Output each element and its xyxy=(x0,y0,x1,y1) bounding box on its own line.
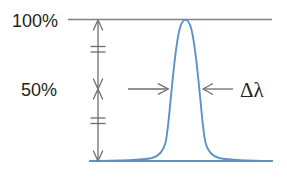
label-delta-lambda: Δλ xyxy=(240,78,265,102)
linewidth-diagram-svg: 100% 50% Δλ xyxy=(0,0,287,179)
label-100-percent: 100% xyxy=(12,11,58,31)
label-50-percent: 50% xyxy=(21,80,57,100)
figure-root: 100% 50% Δλ xyxy=(0,0,287,179)
